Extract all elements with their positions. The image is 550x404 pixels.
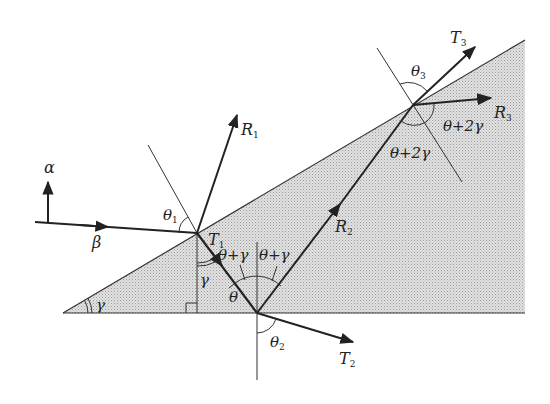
beta-label: β bbox=[91, 233, 101, 252]
gamma-inner-label: γ bbox=[200, 271, 209, 289]
theta1-arc bbox=[179, 217, 188, 233]
theta-plus-gamma-left-label: θ+γ bbox=[218, 246, 249, 264]
theta-plus-gamma-right-label: θ+γ bbox=[259, 246, 290, 264]
theta1-label: θ1 bbox=[163, 206, 178, 225]
T2-label: T2 bbox=[339, 349, 355, 369]
T3-label: T3 bbox=[450, 28, 467, 48]
theta-plus-2gamma-lower-label: θ+2γ bbox=[390, 144, 430, 162]
wedge-ray-diagram: γ α β θ1 R1 γ T1 θ θ+γ θ+γ θ2 T2 R2 θ3 T… bbox=[0, 0, 550, 404]
theta-plus-2gamma-right-label: θ+2γ bbox=[443, 117, 483, 135]
gamma-apex-label: γ bbox=[96, 296, 105, 314]
theta-label: θ bbox=[229, 288, 238, 306]
incident-ray-arrow bbox=[80, 225, 108, 227]
alpha-label: α bbox=[44, 158, 55, 177]
theta2-label: θ2 bbox=[270, 333, 285, 352]
theta3-label: θ3 bbox=[411, 62, 426, 81]
theta2-arc bbox=[257, 319, 276, 333]
R1-label: R1 bbox=[240, 120, 259, 140]
